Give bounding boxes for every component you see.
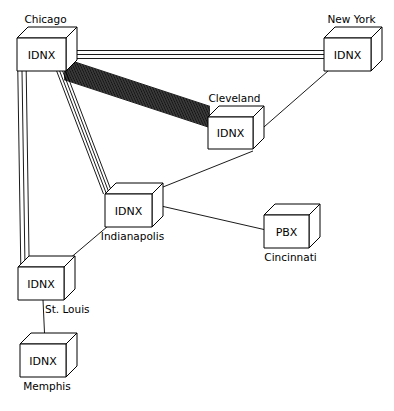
link-cleveland-to-indianapolis — [148, 151, 253, 193]
node-cincinnati[interactable]: PBXCincinnati — [264, 204, 320, 263]
node-new-york[interactable]: IDNXNew York — [324, 13, 382, 71]
node-indianapolis[interactable]: IDNXIndianapolis — [101, 183, 164, 242]
node-device-text: IDNX — [28, 49, 56, 62]
node-label-st-louis: St. Louis — [45, 303, 90, 315]
node-chicago[interactable]: IDNXChicago — [17, 13, 77, 71]
link-chicago-to-st-louis — [18, 71, 29, 267]
network-diagram-canvas: IDNXChicagoIDNXNew YorkIDNXClevelandIDNX… — [0, 0, 394, 411]
node-st-louis[interactable]: IDNXSt. Louis — [18, 256, 90, 315]
link-new-york-to-cleveland — [264, 71, 328, 127]
node-label-indianapolis: Indianapolis — [101, 230, 164, 242]
link-chicago-to-new-york — [66, 51, 324, 59]
node-device-text: IDNX — [217, 127, 245, 140]
node-memphis[interactable]: IDNXMemphis — [20, 333, 77, 392]
node-label-memphis: Memphis — [23, 380, 70, 392]
node-cleveland[interactable]: IDNXCleveland — [208, 92, 264, 149]
network-diagram: IDNXChicagoIDNXNew YorkIDNXClevelandIDNX… — [0, 0, 394, 411]
node-device-text: IDNX — [334, 49, 362, 62]
link-chicago-to-cleveland — [64, 58, 210, 127]
node-device-text: IDNX — [115, 205, 143, 218]
node-device-text: IDNX — [29, 355, 57, 368]
node-label-chicago: Chicago — [24, 13, 66, 25]
link-indianapolis-to-cincinnati — [163, 206, 264, 229]
node-label-new-york: New York — [327, 13, 376, 25]
node-device-text: PBX — [276, 226, 298, 239]
node-device-text: IDNX — [27, 278, 55, 291]
node-label-cincinnati: Cincinnati — [264, 251, 316, 263]
node-label-cleveland: Cleveland — [208, 92, 260, 104]
